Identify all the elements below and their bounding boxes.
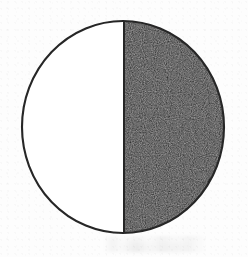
pie-chart-svg [0,0,248,257]
half-filled-circle-figure [0,0,248,257]
figure-page [0,0,248,257]
